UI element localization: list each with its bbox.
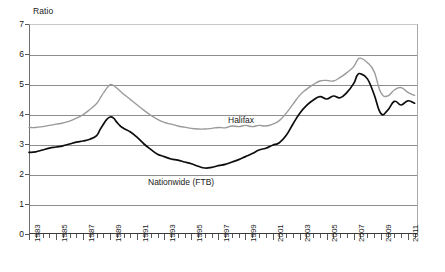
x-tick-mark (191, 234, 192, 240)
x-tick-mark (232, 234, 233, 238)
x-tick-mark (273, 234, 274, 240)
x-tick-mark (340, 234, 341, 238)
x-tick-label-1985: 1985 (60, 224, 69, 242)
x-tick-mark (130, 234, 131, 238)
x-tick-mark (110, 234, 111, 240)
x-tick-mark (151, 234, 152, 238)
y-tick-label-5: 5 (10, 79, 24, 89)
x-tick-mark (239, 234, 240, 238)
x-tick-mark (259, 234, 260, 238)
y-tick-label-3: 3 (10, 139, 24, 149)
x-tick-mark (56, 234, 57, 240)
x-tick-mark (158, 234, 159, 238)
y-tick-mark-3 (25, 144, 29, 145)
x-tick-mark (103, 234, 104, 238)
series-label-nationwide: Nationwide (FTB) (148, 177, 214, 187)
x-tick-label-1989: 1989 (114, 224, 123, 242)
x-tick-mark (266, 234, 267, 238)
x-tick-mark (97, 234, 98, 238)
x-tick-label-1983: 1983 (33, 224, 42, 242)
x-tick-mark (381, 234, 382, 240)
x-tick-mark (137, 234, 138, 240)
y-tick-label-0: 0 (10, 229, 24, 239)
y-tick-mark-2 (25, 174, 29, 175)
x-tick-label-1991: 1991 (141, 224, 150, 242)
x-tick-label-1995: 1995 (195, 224, 204, 242)
x-tick-label-2003: 2003 (303, 224, 312, 242)
x-tick-mark (124, 234, 125, 238)
x-tick-label-2009: 2009 (384, 224, 393, 242)
y-tick-label-4: 4 (10, 109, 24, 119)
y-tick-mark-4 (25, 114, 29, 115)
series-line-halifax (29, 58, 415, 129)
x-tick-mark (286, 234, 287, 238)
x-tick-mark (83, 234, 84, 240)
series-line-nationwide-ftb (29, 73, 415, 168)
x-tick-label-1999: 1999 (249, 224, 258, 242)
x-tick-label-2005: 2005 (330, 224, 339, 242)
x-tick-mark (374, 234, 375, 238)
x-tick-mark (347, 234, 348, 238)
x-tick-mark (29, 234, 30, 240)
y-tick-label-6: 6 (10, 49, 24, 59)
x-tick-mark (327, 234, 328, 240)
x-tick-mark (164, 234, 165, 240)
y-tick-label-7: 7 (10, 19, 24, 29)
y-tick-label-2: 2 (10, 169, 24, 179)
y-tick-mark-5 (25, 84, 29, 85)
x-tick-label-1987: 1987 (87, 224, 96, 242)
x-tick-label-2011: 2011 (411, 225, 420, 242)
x-tick-label-2001: 2001 (276, 224, 285, 242)
x-tick-mark (178, 234, 179, 238)
x-tick-mark (43, 234, 44, 238)
x-tick-mark (300, 234, 301, 240)
ratio-line-chart: Ratio Halifax Nationwide (FTB) 012345671… (0, 0, 445, 272)
series-layer (29, 24, 418, 234)
x-tick-mark (218, 234, 219, 240)
x-tick-mark (205, 234, 206, 238)
x-tick-mark (70, 234, 71, 238)
x-tick-mark (185, 234, 186, 238)
x-tick-mark (394, 234, 395, 238)
x-tick-mark (49, 234, 50, 238)
y-tick-mark-1 (25, 204, 29, 205)
x-tick-mark (293, 234, 294, 238)
x-tick-mark (320, 234, 321, 238)
x-tick-mark (212, 234, 213, 238)
x-tick-mark (408, 234, 409, 240)
x-tick-mark (245, 234, 246, 240)
y-tick-mark-6 (25, 54, 29, 55)
x-tick-mark (313, 234, 314, 238)
x-tick-mark (401, 234, 402, 238)
x-tick-mark (76, 234, 77, 238)
y-axis-title: Ratio (33, 6, 53, 16)
x-tick-mark (367, 234, 368, 238)
series-label-halifax: Halifax (228, 115, 254, 125)
y-tick-mark-7 (25, 24, 29, 25)
x-tick-mark (354, 234, 355, 240)
x-tick-label-1993: 1993 (168, 224, 177, 242)
x-tick-label-2007: 2007 (357, 224, 366, 242)
x-tick-label-1997: 1997 (222, 224, 231, 242)
y-tick-label-1: 1 (10, 199, 24, 209)
